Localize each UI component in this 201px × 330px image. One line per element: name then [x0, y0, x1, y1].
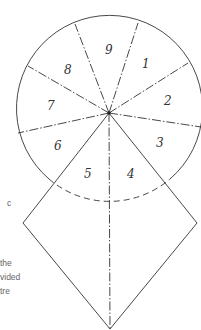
segment-line [109, 23, 138, 113]
square-outline [23, 113, 197, 329]
segment-label-3: 3 [156, 136, 164, 150]
segment-label-1: 1 [142, 57, 150, 71]
axis-line [109, 113, 110, 329]
circle-square-diagram: 9 1 2 3 4 5 6 7 8 [0, 0, 201, 330]
segment-label-6: 6 [54, 139, 62, 153]
caption-line-2: vided [0, 270, 20, 284]
segment-label-4: 4 [126, 167, 135, 181]
caption-line-1: the [0, 256, 12, 270]
segment-line [75, 24, 109, 113]
center-point [107, 111, 111, 115]
segment-label-9: 9 [105, 43, 113, 57]
segment-line [109, 113, 201, 127]
segment-label-7: 7 [47, 99, 55, 113]
caption-line-3: tre [0, 284, 10, 298]
segment-label-8: 8 [64, 63, 72, 77]
figure-label: c [7, 196, 11, 210]
segment-label-2: 2 [163, 94, 172, 108]
segment-label-5: 5 [84, 167, 92, 181]
